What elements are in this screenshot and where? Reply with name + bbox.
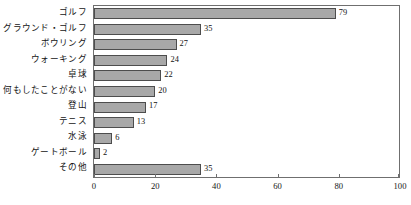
bar-value-label: 2 bbox=[103, 147, 107, 160]
x-axis-tick bbox=[216, 174, 217, 178]
bar-row: 27 bbox=[94, 37, 400, 53]
category-axis-labels: ゴルフグラウンド・ゴルフボウリングウォーキング卓球何もしたことがない登山テニス水… bbox=[0, 5, 90, 178]
bar bbox=[94, 24, 201, 35]
bar-value-label: 13 bbox=[137, 116, 145, 129]
bar bbox=[94, 70, 161, 81]
bar-row: 20 bbox=[94, 84, 400, 100]
category-label: 水泳 bbox=[68, 129, 87, 145]
category-label: 何もしたことがない bbox=[3, 83, 87, 99]
x-axis-tick bbox=[94, 174, 95, 178]
bar bbox=[94, 164, 201, 175]
bar-value-label: 22 bbox=[164, 69, 172, 82]
bar-value-label: 35 bbox=[204, 163, 212, 176]
bar-value-label: 27 bbox=[180, 38, 188, 51]
bar-row: 22 bbox=[94, 68, 400, 84]
bar-chart: ゴルフグラウンド・ゴルフボウリングウォーキング卓球何もしたことがない登山テニス水… bbox=[0, 0, 411, 205]
bar-value-label: 79 bbox=[339, 7, 347, 20]
bar-row: 24 bbox=[94, 53, 400, 69]
bar-row: 13 bbox=[94, 115, 400, 131]
bar bbox=[94, 55, 167, 66]
category-label: ボウリング bbox=[41, 36, 88, 52]
cropped-caption bbox=[0, 200, 411, 205]
category-label: 登山 bbox=[68, 98, 87, 114]
x-axis-tick-labels: 020406080100 bbox=[93, 180, 400, 193]
bar bbox=[94, 133, 112, 144]
x-axis-tick-label: 40 bbox=[212, 180, 221, 192]
bar-row: 2 bbox=[94, 146, 400, 162]
category-label: グラウンド・ゴルフ bbox=[3, 21, 87, 37]
bar-row: 35 bbox=[94, 22, 400, 38]
bar-row: 79 bbox=[94, 6, 400, 22]
bar-row: 17 bbox=[94, 99, 400, 115]
category-label: ゲートボール bbox=[31, 145, 87, 161]
bar bbox=[94, 102, 146, 113]
category-label: その他 bbox=[59, 160, 87, 176]
x-axis-tick-label: 0 bbox=[92, 180, 96, 192]
x-axis-tick bbox=[155, 174, 156, 178]
bar bbox=[94, 86, 155, 97]
bar bbox=[94, 8, 336, 19]
category-label: テニス bbox=[59, 114, 87, 130]
bar-row: 35 bbox=[94, 161, 400, 177]
x-axis-tick-label: 20 bbox=[151, 180, 160, 192]
bar bbox=[94, 148, 100, 159]
category-label: ゴルフ bbox=[59, 5, 87, 21]
x-axis-tick-label: 60 bbox=[273, 180, 282, 192]
bar-value-label: 35 bbox=[204, 23, 212, 36]
category-label: ウォーキング bbox=[31, 52, 87, 68]
bar-row: 6 bbox=[94, 130, 400, 146]
bar-value-label: 6 bbox=[115, 132, 119, 145]
x-axis-tick bbox=[339, 174, 340, 178]
x-axis-tick-label: 100 bbox=[394, 180, 407, 192]
x-axis-tick bbox=[398, 174, 399, 178]
x-axis-tick-label: 80 bbox=[335, 180, 344, 192]
category-label: 卓球 bbox=[68, 67, 87, 83]
bar bbox=[94, 117, 134, 128]
bar bbox=[94, 39, 177, 50]
x-axis-tick bbox=[278, 174, 279, 178]
bars-layer: 79352724222017136235 bbox=[94, 6, 400, 177]
bar-value-label: 17 bbox=[149, 100, 157, 113]
bar-value-label: 20 bbox=[158, 85, 166, 98]
bar-value-label: 24 bbox=[170, 54, 178, 67]
